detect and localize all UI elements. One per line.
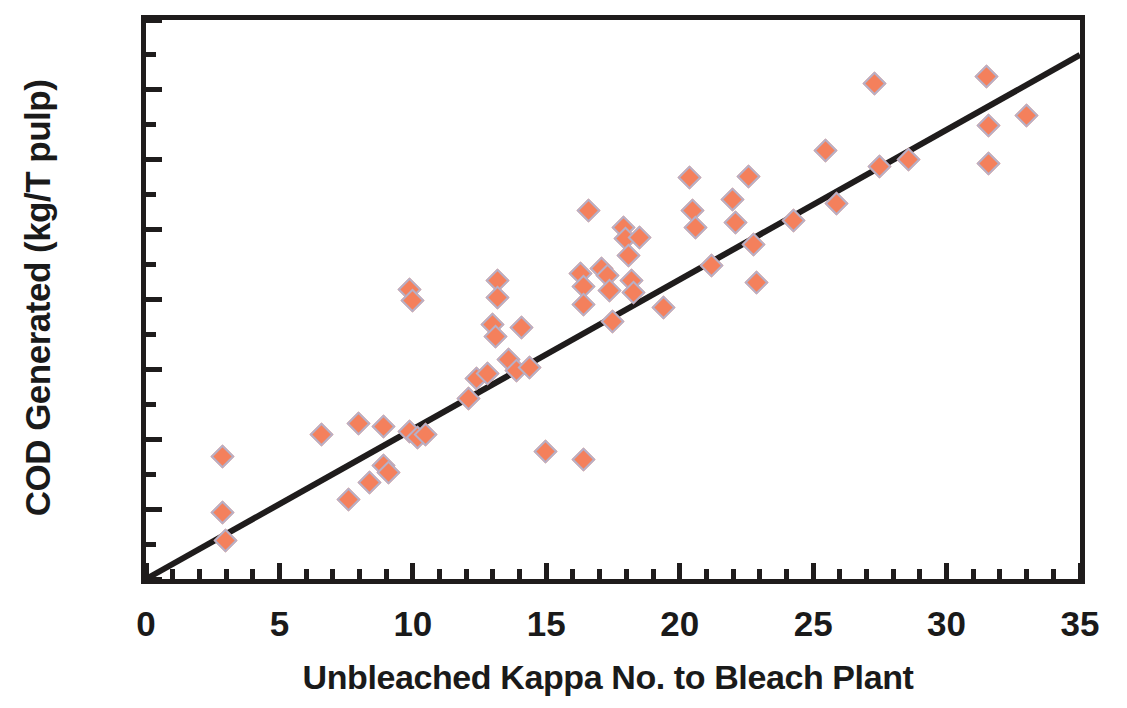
- x-axis-minor-tick: [224, 569, 229, 580]
- x-axis-minor-tick: [597, 569, 602, 580]
- x-axis-tick-label: 25: [768, 606, 858, 641]
- x-axis-minor-tick: [304, 569, 309, 580]
- x-axis-minor-tick: [490, 569, 495, 580]
- x-axis-major-tick: [1078, 563, 1083, 580]
- x-axis-major-tick: [944, 563, 949, 580]
- y-axis-title: COD Generated (kg/T pulp): [18, 8, 58, 588]
- x-axis-minor-tick: [197, 569, 202, 580]
- y-axis-major-tick: [145, 437, 162, 442]
- y-axis-minor-tick: [145, 402, 156, 407]
- y-axis-major-tick: [145, 367, 162, 372]
- y-axis-minor-tick: [145, 262, 156, 267]
- x-axis-major-tick: [544, 563, 549, 580]
- x-axis-minor-tick: [250, 569, 255, 580]
- trendline: [146, 20, 1080, 579]
- y-axis-minor-tick: [145, 472, 156, 477]
- y-axis-major-tick: [145, 227, 162, 232]
- plot-surface: 0102030405060708005101520253035: [146, 20, 1080, 579]
- x-axis-minor-tick: [1051, 569, 1056, 580]
- x-axis-major-tick: [277, 563, 282, 580]
- y-axis-minor-tick: [145, 192, 156, 197]
- x-axis-minor-tick: [517, 569, 522, 580]
- x-axis-minor-tick: [624, 569, 629, 580]
- x-axis-minor-tick: [570, 569, 575, 580]
- x-axis-tick-label: 0: [101, 606, 191, 641]
- y-axis-major-tick: [145, 87, 162, 92]
- x-axis-minor-tick: [891, 569, 896, 580]
- x-axis-minor-tick: [784, 569, 789, 580]
- y-axis-minor-tick: [145, 332, 156, 337]
- x-axis-major-tick: [677, 563, 682, 580]
- x-axis-minor-tick: [651, 569, 656, 580]
- x-axis-minor-tick: [971, 569, 976, 580]
- x-axis-minor-tick: [437, 569, 442, 580]
- y-axis-major-tick: [145, 157, 162, 162]
- x-axis-major-tick: [144, 563, 149, 580]
- y-axis-major-tick: [145, 297, 162, 302]
- x-axis-tick-label: 20: [635, 606, 725, 641]
- x-axis-minor-tick: [170, 569, 175, 580]
- x-axis-tick-label: 30: [902, 606, 992, 641]
- x-axis-minor-tick: [330, 569, 335, 580]
- x-axis-minor-tick: [1024, 569, 1029, 580]
- x-axis-minor-tick: [864, 569, 869, 580]
- x-axis-minor-tick: [464, 569, 469, 580]
- scatter-chart-figure: COD Generated (kg/T pulp) Unbleached Kap…: [0, 0, 1127, 708]
- x-axis-tick-label: 5: [234, 606, 324, 641]
- x-axis-tick-label: 35: [1035, 606, 1125, 641]
- y-axis-minor-tick: [145, 542, 156, 547]
- y-axis-minor-tick: [145, 122, 156, 127]
- y-axis-minor-tick: [145, 52, 156, 57]
- x-axis-minor-tick: [384, 569, 389, 580]
- x-axis-minor-tick: [731, 569, 736, 580]
- x-axis-minor-tick: [357, 569, 362, 580]
- x-axis-tick-label: 10: [368, 606, 458, 641]
- x-axis-title: Unbleached Kappa No. to Bleach Plant: [141, 658, 1075, 697]
- x-axis-minor-tick: [757, 569, 762, 580]
- x-axis-major-tick: [410, 563, 415, 580]
- x-axis-minor-tick: [837, 569, 842, 580]
- x-axis-major-tick: [811, 563, 816, 580]
- y-axis-major-tick: [145, 507, 162, 512]
- y-axis-major-tick: [145, 18, 162, 23]
- x-axis-minor-tick: [704, 569, 709, 580]
- plot-area: 0102030405060708005101520253035: [141, 15, 1085, 584]
- x-axis-tick-label: 15: [501, 606, 591, 641]
- x-axis-minor-tick: [917, 569, 922, 580]
- x-axis-minor-tick: [997, 569, 1002, 580]
